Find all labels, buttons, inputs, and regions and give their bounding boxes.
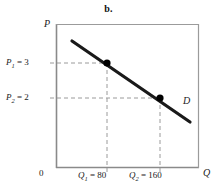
demand-curve-label: D xyxy=(183,95,190,106)
data-point-2 xyxy=(156,94,163,101)
quantity-label-1: Q1 = 80 xyxy=(78,170,106,182)
price-label-1: P1 = 3 xyxy=(6,57,29,69)
price-label-2: P2 = 2 xyxy=(6,92,29,104)
chart-figure: b. P Q 0 P1 = 3 P2 = 2 Q1 = 80 Q2 = 160 … xyxy=(0,0,217,190)
quantity-2-subscript: 2 xyxy=(136,175,139,182)
quantity-1-subscript: 1 xyxy=(85,175,88,182)
quantity-2-value: = 160 xyxy=(141,170,162,180)
price-2-subscript: 2 xyxy=(12,97,15,104)
quantity-label-2: Q2 = 160 xyxy=(129,170,162,182)
data-point-1 xyxy=(103,59,110,66)
origin-label: 0 xyxy=(39,168,44,178)
x-axis-label: Q xyxy=(203,167,210,178)
y-axis-label: P xyxy=(44,18,50,29)
price-2-value: = 2 xyxy=(17,92,29,102)
price-1-value: = 3 xyxy=(17,57,29,67)
demand-curve-line xyxy=(72,41,190,122)
quantity-1-value: = 80 xyxy=(90,170,106,180)
price-1-subscript: 1 xyxy=(12,62,15,69)
